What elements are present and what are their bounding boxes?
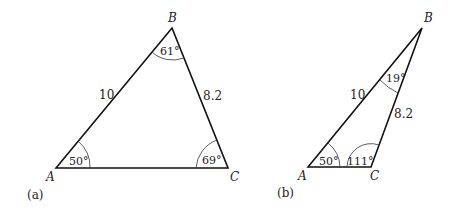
angle-b-B: 19° <box>386 72 406 85</box>
side-a-AB: 10 <box>99 88 114 102</box>
angle-a-C: 69° <box>202 154 222 167</box>
angle-a-A: 50° <box>69 155 89 168</box>
vertex-a-C: C <box>230 170 239 184</box>
caption-b: (b) <box>277 186 294 200</box>
side-b-AB: 10 <box>350 88 365 102</box>
angle-b-A: 50° <box>319 155 339 168</box>
vertex-a-A: A <box>45 170 55 184</box>
triangle-a: A B C 10 8.2 50° 61° 69° (a) <box>27 11 239 202</box>
angle-b-C: 111° <box>347 155 374 168</box>
angle-a-B: 61° <box>160 45 180 58</box>
side-b-BC: 8.2 <box>394 107 413 121</box>
vertex-b-A: A <box>297 169 307 183</box>
triangle-diagram: A B C 10 8.2 50° 61° 69° (a) A B C 10 8.… <box>0 0 468 218</box>
side-a-BC: 8.2 <box>203 89 222 103</box>
caption-a: (a) <box>27 188 44 202</box>
vertex-a-B: B <box>167 11 177 25</box>
triangle-b: A B C 10 8.2 50° 19° 111° (b) <box>277 11 433 200</box>
vertex-b-C: C <box>370 169 379 183</box>
vertex-b-B: B <box>423 11 433 25</box>
